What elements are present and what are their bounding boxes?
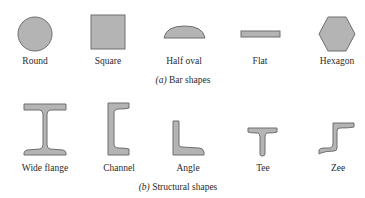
caption-b-text: Structural shapes <box>150 182 218 192</box>
caption-b: (b) Structural shapes <box>139 182 218 192</box>
label-zee: Zee <box>331 163 345 173</box>
square-shape-icon <box>91 15 125 49</box>
flat-bar-shape-icon <box>241 31 280 37</box>
caption-b-letter: (b) <box>139 182 150 192</box>
label-flat: Flat <box>253 56 268 66</box>
half-oval-shape-icon <box>164 26 205 38</box>
wide-flange-beam-icon <box>24 104 66 155</box>
label-round: Round <box>22 56 47 66</box>
label-wide-flange: Wide flange <box>22 163 68 173</box>
label-tee: Tee <box>256 163 270 173</box>
channel-section-icon <box>108 103 129 155</box>
hexagon-shape-icon <box>319 17 355 51</box>
label-half-oval: Half oval <box>166 56 202 66</box>
label-angle: Angle <box>176 163 199 173</box>
caption-a: (a) Bar shapes <box>156 75 211 85</box>
label-channel: Channel <box>103 163 135 173</box>
tee-section-icon <box>248 128 277 156</box>
label-hexagon: Hexagon <box>320 56 354 66</box>
label-square: Square <box>95 56 121 66</box>
caption-a-text: Bar shapes <box>167 75 211 85</box>
circle-shape-icon <box>18 17 52 51</box>
zee-section-icon <box>319 123 354 154</box>
caption-a-letter: (a) <box>156 75 167 85</box>
angle-section-icon <box>173 121 204 155</box>
